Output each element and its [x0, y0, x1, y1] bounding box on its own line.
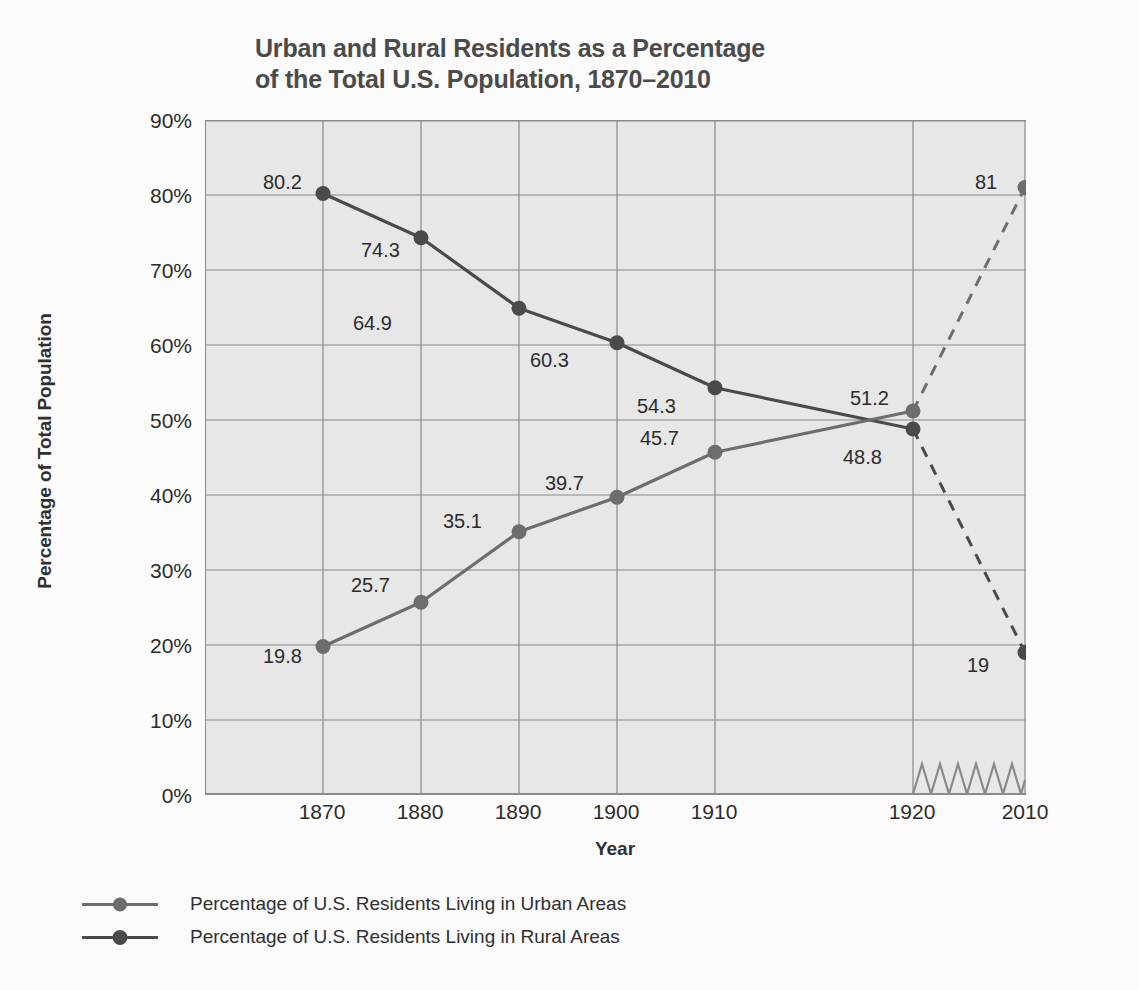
series-line-rural	[323, 194, 913, 430]
x-tick-2010: 2010	[965, 800, 1085, 824]
y-tick-60: 60%	[100, 335, 192, 356]
y-tick-50: 50%	[100, 410, 192, 431]
data-label-urban-1880: 25.7	[351, 575, 390, 595]
y-tick-30: 30%	[100, 560, 192, 581]
y-tick-70: 70%	[100, 260, 192, 281]
y-tick-90: 90%	[100, 110, 192, 131]
x-tick-1920: 1920	[852, 800, 972, 824]
series-markers-urban	[316, 180, 1027, 654]
legend-item-rural[interactable]: Percentage of U.S. Residents Living in R…	[80, 921, 980, 954]
horizontal-gridlines	[206, 195, 1026, 720]
data-label-urban-2010: 81	[975, 172, 997, 192]
data-label-urban-1920: 51.2	[850, 388, 889, 408]
data-label-rural-1880: 74.3	[361, 240, 400, 260]
legend-label-rural: Percentage of U.S. Residents Living in R…	[190, 926, 620, 948]
data-label-rural-1920: 48.8	[843, 447, 882, 467]
chart-legend: Percentage of U.S. Residents Living in U…	[80, 888, 980, 954]
y-axis-title: Percentage of Total Population	[34, 241, 56, 661]
vertical-gridlines	[323, 120, 1025, 795]
data-label-rural-1910: 54.3	[637, 396, 676, 416]
title-line-2: of the Total U.S. Population, 1870–2010	[255, 64, 975, 95]
data-label-rural-1870: 80.2	[263, 172, 302, 192]
legend-item-urban[interactable]: Percentage of U.S. Residents Living in U…	[80, 888, 980, 921]
legend-swatch-urban	[80, 888, 160, 921]
chart-figure: Urban and Rural Residents as a Percentag…	[0, 0, 1139, 990]
page-title: Urban and Rural Residents as a Percentag…	[255, 33, 975, 95]
chart-canvas	[206, 120, 1026, 795]
legend-label-urban: Percentage of U.S. Residents Living in U…	[190, 893, 626, 915]
y-tick-40: 40%	[100, 485, 192, 506]
x-tick-1910: 1910	[654, 800, 774, 824]
x-axis-title: Year	[205, 838, 1025, 860]
data-label-urban-1870: 19.8	[263, 646, 302, 666]
legend-swatch-rural	[80, 921, 160, 954]
series-dash-rural	[913, 429, 1025, 653]
title-line-1: Urban and Rural Residents as a Percentag…	[255, 33, 975, 64]
data-label-urban-1900: 39.7	[545, 473, 584, 493]
data-label-urban-1910: 45.7	[640, 428, 679, 448]
y-tick-80: 80%	[100, 185, 192, 206]
y-tick-0: 0%	[100, 785, 192, 806]
data-label-rural-2010: 19	[967, 655, 989, 675]
axis-break-zigzag	[913, 764, 1025, 794]
series-dash-urban	[913, 188, 1025, 412]
series-line-urban	[323, 411, 913, 647]
plot-area	[205, 120, 1025, 795]
data-label-urban-1890: 35.1	[443, 511, 482, 531]
data-label-rural-1890: 64.9	[353, 313, 392, 333]
series-markers-rural	[316, 186, 1027, 660]
y-tick-10: 10%	[100, 710, 192, 731]
data-label-rural-1900: 60.3	[530, 350, 569, 370]
y-tick-20: 20%	[100, 635, 192, 656]
